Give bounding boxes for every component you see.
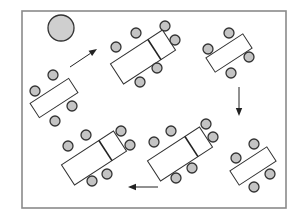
chair-circle	[203, 44, 213, 54]
chair-circle	[208, 132, 218, 142]
chair-circle	[67, 101, 77, 111]
chair-circle	[50, 116, 60, 126]
chair-circle	[63, 141, 73, 151]
chair-circle	[81, 130, 91, 140]
chair-circle	[135, 77, 145, 87]
chair-circle	[249, 182, 259, 192]
chair-circle	[226, 68, 236, 78]
chair-circle	[160, 21, 170, 31]
chair-circle	[249, 139, 259, 149]
chair-circle	[231, 153, 241, 163]
diagram-canvas	[0, 0, 303, 216]
chair-circle	[111, 42, 121, 52]
round-object-circle	[48, 15, 74, 41]
chair-circle	[166, 126, 176, 136]
chair-circle	[171, 173, 181, 183]
chair-circle	[201, 119, 211, 129]
chair-circle	[102, 169, 112, 179]
chair-circle	[244, 52, 254, 62]
chair-circle	[149, 137, 159, 147]
classroom-layout-diagram	[0, 0, 303, 216]
chair-circle	[48, 70, 58, 80]
chair-circle	[87, 176, 97, 186]
chair-circle	[30, 86, 40, 96]
chair-circle	[116, 126, 126, 136]
chair-circle	[224, 28, 234, 38]
chair-circle	[125, 140, 135, 150]
chair-circle	[152, 63, 162, 73]
chair-circle	[131, 28, 141, 38]
chair-circle	[265, 169, 275, 179]
chair-circle	[187, 163, 197, 173]
chair-circle	[170, 35, 180, 45]
